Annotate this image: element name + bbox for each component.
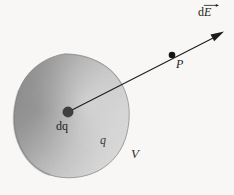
physics-diagram-figure: dq q V P dE <box>0 0 234 195</box>
label-charge-element: dq <box>56 120 68 132</box>
label-volume: V <box>131 147 139 160</box>
label-field-vector-symbol-wrap: E <box>204 6 211 18</box>
label-field-vector-symbol: E <box>204 5 211 19</box>
field-point-dot <box>169 52 176 59</box>
label-field-vector: dE <box>198 6 211 18</box>
label-total-charge: q <box>100 134 106 146</box>
charge-element-dot <box>63 107 73 117</box>
label-field-point: P <box>176 58 183 70</box>
diagram-canvas <box>0 0 234 195</box>
